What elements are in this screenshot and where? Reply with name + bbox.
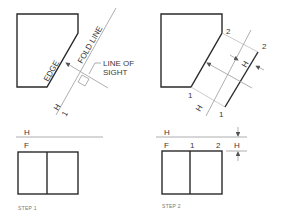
step2-front-2-label: 2 bbox=[216, 141, 221, 150]
step1-line-of-sight-arrow bbox=[66, 63, 108, 88]
step1-fold-1-label: 1 bbox=[60, 109, 70, 118]
step2-pt2-aux-label: 2 bbox=[262, 42, 267, 51]
step1-caption: STEP 1 bbox=[18, 205, 37, 211]
step1-edge-label: EDGE bbox=[42, 59, 61, 83]
step2-fold-line bbox=[206, 30, 251, 116]
step1-top-f-label: F bbox=[24, 141, 29, 150]
step2-top-f-label: F bbox=[164, 141, 169, 150]
step1-leader-line bbox=[89, 63, 101, 74]
step1-line-of-sight-label-2: SIGHT bbox=[103, 68, 128, 77]
auxiliary-view-diagram: EDGE FOLD LINE LINE OF SIGHT H 1 H F STE… bbox=[0, 0, 281, 220]
step1-line-of-sight-label-1: LINE OF bbox=[103, 59, 134, 68]
step1-fold-line-label: FOLD LINE bbox=[76, 25, 104, 65]
step1-group: EDGE FOLD LINE LINE OF SIGHT H 1 H F STE… bbox=[16, 8, 134, 211]
step2-object-shape bbox=[161, 14, 222, 87]
step2-group: 2 2 1 1 H H H F 1 2 H STEP 2 bbox=[156, 14, 267, 209]
step2-dim-arrow-right bbox=[256, 66, 264, 70]
step2-pt1-aux-label: 1 bbox=[219, 110, 224, 119]
step2-dim-h-front-label: H bbox=[234, 141, 240, 150]
step2-front-view bbox=[162, 151, 222, 194]
step1-front-view bbox=[18, 152, 78, 194]
step2-pt1-top-label: 1 bbox=[188, 91, 193, 100]
step2-fold-h-label: H bbox=[194, 103, 205, 113]
step2-top-h-label: H bbox=[164, 128, 170, 137]
step2-front-1-label: 1 bbox=[190, 141, 195, 150]
step2-caption: STEP 2 bbox=[162, 203, 181, 209]
step1-top-h-label: H bbox=[24, 128, 30, 137]
step2-pt2-top-label: 2 bbox=[226, 27, 231, 36]
step1-right-angle-mark bbox=[78, 75, 89, 86]
